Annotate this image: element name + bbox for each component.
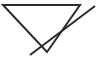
figure-canvas: [0, 0, 102, 58]
line-drawing-svg: [0, 0, 102, 58]
background-rect: [0, 0, 102, 58]
